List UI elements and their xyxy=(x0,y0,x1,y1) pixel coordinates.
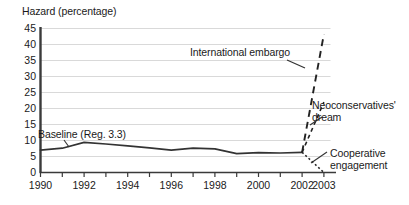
annotation-international-embargo: International embargo xyxy=(190,46,290,58)
x-tick-2002: 2002 xyxy=(290,179,314,191)
x-tick-1998: 1998 xyxy=(203,179,227,191)
leader-line-embargo xyxy=(287,60,305,68)
x-tick-1996: 1996 xyxy=(160,179,184,191)
y-tick-40: 40 xyxy=(24,38,36,50)
y-tick-45: 45 xyxy=(24,22,36,34)
x-tick-1994: 1994 xyxy=(116,179,140,191)
series-international-embargo xyxy=(302,34,324,152)
y-tick-20: 20 xyxy=(24,102,36,114)
x-tick-2000: 2000 xyxy=(247,179,271,191)
y-tick-30: 30 xyxy=(24,70,36,82)
leader-line-cooperative xyxy=(311,152,327,163)
y-tick-0: 0 xyxy=(30,166,36,178)
annotation-baseline: Baseline (Reg. 3.3) xyxy=(38,128,126,140)
y-tick-10: 10 xyxy=(24,134,36,146)
leader-line-baseline xyxy=(64,140,69,147)
annotation-cooperative-engagement: Cooperative engagement xyxy=(330,147,408,171)
x-tick-labels: 1990 1992 1994 1996 1998 2000 2002 2003 xyxy=(29,179,336,191)
y-tick-5: 5 xyxy=(30,150,36,162)
y-tick-labels: 45 40 35 30 25 20 15 10 5 0 xyxy=(24,22,36,178)
y-tick-15: 15 xyxy=(24,118,36,130)
y-tick-35: 35 xyxy=(24,54,36,66)
hazard-chart: Hazard (percentage) 45 40 35 30 25 20 15 xyxy=(0,0,409,205)
annotation-neoconservatives-dream: Neoconservatives' dream xyxy=(312,99,407,123)
x-tick-1990: 1990 xyxy=(29,179,53,191)
series-cooperative-engagement xyxy=(302,152,324,172)
x-tick-2003: 2003 xyxy=(312,179,336,191)
x-tick-1992: 1992 xyxy=(72,179,96,191)
y-tick-25: 25 xyxy=(24,86,36,98)
series-baseline xyxy=(41,142,303,153)
